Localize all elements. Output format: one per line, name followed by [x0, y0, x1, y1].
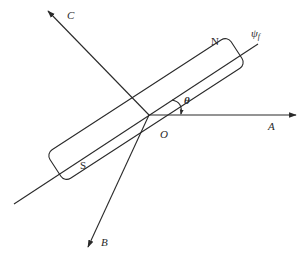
vector-c-arrow	[48, 11, 149, 115]
vector-b-arrow	[88, 115, 149, 247]
label-field-axis: ψf	[251, 27, 262, 41]
bar-magnet	[46, 36, 246, 182]
label-south: S	[80, 159, 86, 171]
label-theta: θ	[184, 94, 190, 106]
magnet-vector-diagram: C N ψf θ O A S B	[0, 0, 300, 259]
label-field-axis-subscript: f	[258, 32, 262, 41]
label-b: B	[101, 236, 108, 248]
field-axis-line	[14, 44, 258, 204]
label-north: N	[211, 35, 219, 47]
label-a: A	[267, 120, 275, 132]
label-origin: O	[160, 128, 168, 140]
label-c: C	[67, 9, 75, 21]
